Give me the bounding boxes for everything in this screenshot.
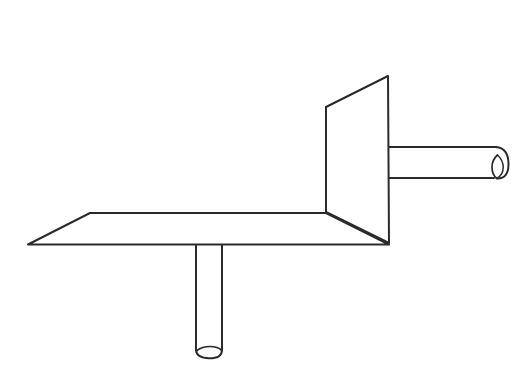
vertical-post-body-fill bbox=[196, 244, 222, 358]
horizontal-rod-group bbox=[388, 147, 509, 179]
horizontal-plate-group bbox=[28, 213, 389, 245]
drawing-canvas bbox=[0, 0, 529, 384]
vertical-post-group bbox=[196, 244, 222, 358]
technical-drawing-svg bbox=[0, 0, 529, 384]
horizontal-rod-body-fill bbox=[388, 147, 508, 179]
